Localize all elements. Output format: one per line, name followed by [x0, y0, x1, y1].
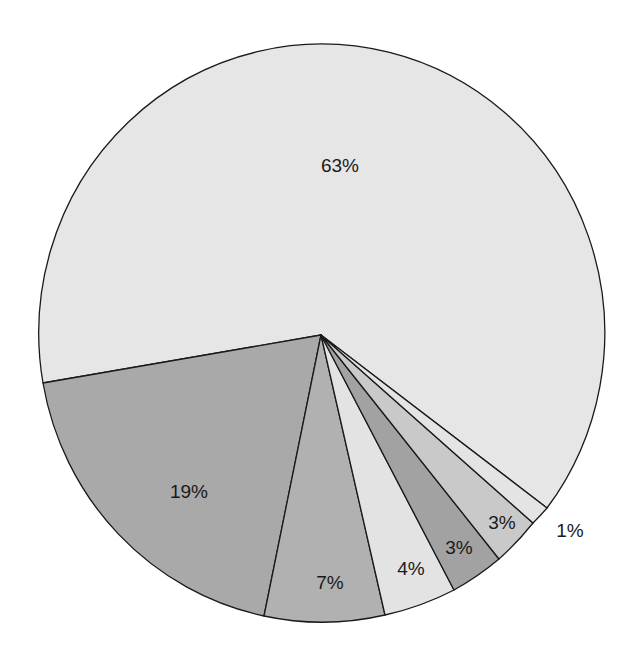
slice-label: 3%: [445, 537, 473, 558]
slice-label: 1%: [556, 520, 584, 541]
slice-label: 63%: [321, 155, 359, 176]
slice-label: 19%: [170, 481, 208, 502]
slice-label: 7%: [316, 572, 344, 593]
slice-label: 3%: [488, 512, 516, 533]
pie-chart: 63%19%7%4%3%3%1%: [0, 0, 640, 666]
slice-label: 4%: [397, 558, 425, 579]
pie-slices: [39, 44, 605, 622]
